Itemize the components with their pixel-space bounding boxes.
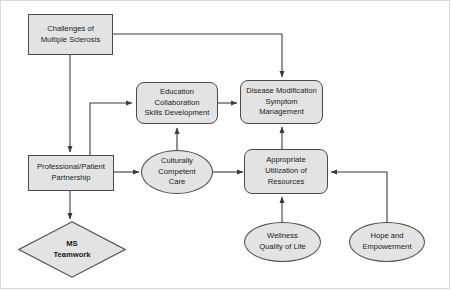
node-label: Professional/Patient Partnership: [35, 162, 107, 184]
node-education-collaboration-skills-development[interactable]: Education Collaboration Skills Developme…: [136, 82, 218, 124]
node-challenges-of-multiple-sclerosis[interactable]: Challenges of Multiple Sclerosis: [28, 14, 113, 55]
node-label: Challenges of Multiple Sclerosis: [39, 24, 102, 46]
node-culturally-competent-care[interactable]: Culturally Competent Care: [141, 150, 213, 194]
node-label: Hope and Empowerment: [360, 231, 413, 253]
node-wellness-quality-of-life[interactable]: Wellness Quality of Life: [244, 222, 321, 262]
node-ms-teamwork[interactable]: MS Teamwork: [18, 221, 126, 278]
edge-challenges-to-disease: [113, 34, 282, 77]
node-label: MS Teamwork: [54, 239, 91, 261]
node-hope-and-empowerment[interactable]: Hope and Empowerment: [349, 222, 425, 262]
node-label: Appropriate Utilization of Resources: [263, 155, 309, 187]
concept-map-diagram: Challenges of Multiple Sclerosis Educati…: [0, 0, 451, 290]
node-label: Disease Modification Symptom Management: [244, 86, 318, 118]
node-label: Culturally Competent Care: [156, 156, 197, 188]
node-label: Wellness Quality of Life: [257, 231, 308, 253]
edge-partnership-to-education: [90, 103, 132, 155]
node-appropriate-utilization-of-resources[interactable]: Appropriate Utilization of Resources: [244, 149, 328, 194]
edge-hope-to-resources: [331, 172, 387, 222]
node-disease-modification-symptom-management[interactable]: Disease Modification Symptom Management: [240, 80, 323, 124]
node-professional-patient-partnership[interactable]: Professional/Patient Partnership: [28, 155, 114, 191]
node-label: Education Collaboration Skills Developme…: [143, 87, 212, 119]
